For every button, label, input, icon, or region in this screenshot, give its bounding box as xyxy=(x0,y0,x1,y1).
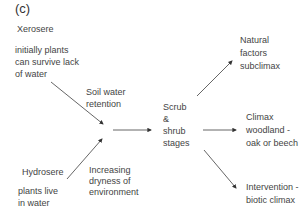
intervention-line-1: Intervention - xyxy=(246,181,299,193)
climax-line-1: Climax xyxy=(246,111,274,123)
hydrosere-title: Hydrosere xyxy=(22,166,64,178)
scrub-line-1: Scrub xyxy=(163,101,187,113)
hydrosere-desc-line-2: in water xyxy=(18,197,50,209)
natural-line-2: factors xyxy=(240,47,267,59)
xerosere-desc-line-1: initially plants xyxy=(15,44,69,56)
scrub-line-2: & xyxy=(163,113,169,125)
to-natural-arrow xyxy=(197,61,232,96)
natural-line-1: Natural xyxy=(240,34,269,46)
scrub-line-3: shrub xyxy=(163,125,186,137)
soil-water-line-2: retention xyxy=(86,98,121,110)
dryness-line-3: environment xyxy=(89,186,139,198)
xerosere-title: Xerosere xyxy=(17,23,54,35)
figure-label: (c) xyxy=(15,3,30,15)
natural-line-3: subclimax xyxy=(240,60,280,72)
to-intervention-arrow xyxy=(204,150,236,188)
intervention-line-2: biotic climax xyxy=(246,194,295,206)
climax-line-3: oak or beech xyxy=(246,137,298,149)
soil-water-line-1: Soil water xyxy=(86,86,126,98)
scrub-line-4: stages xyxy=(163,137,190,149)
xerosere-desc-line-2: can survive lack xyxy=(15,56,79,68)
xerosere-desc-line-3: of water xyxy=(15,68,47,80)
climax-line-2: woodland - xyxy=(246,124,290,136)
hydrosere-desc-line-1: plants live xyxy=(18,185,58,197)
